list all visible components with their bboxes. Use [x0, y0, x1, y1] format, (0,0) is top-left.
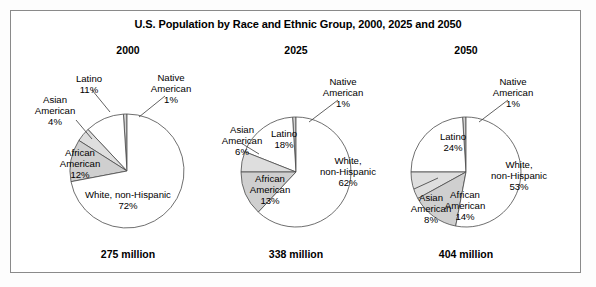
label-line: 12% [70, 169, 89, 180]
label-line: non-Hispanic [491, 170, 547, 181]
label-line: American [445, 200, 486, 211]
label-line: African [255, 173, 285, 184]
label-line: American [250, 184, 291, 195]
label-line: 24% [443, 142, 462, 153]
label-white-non-hispanic-2000: White, non-Hispanic 72% [62, 189, 194, 211]
label-line: African [65, 147, 95, 158]
label-line: 72% [118, 200, 137, 211]
label-asian-american-2025: Asian American 6% [200, 124, 284, 158]
total-population-2025: 338 million [226, 248, 366, 260]
label-african-american-2025: African American 13% [231, 173, 309, 207]
label-line: 13% [260, 195, 279, 206]
label-line: American [151, 83, 192, 94]
label-line: American [493, 87, 534, 98]
label-asian-american-2000: Asian American 4% [13, 94, 97, 128]
label-line: White, [505, 159, 532, 170]
label-line: 6% [235, 146, 249, 157]
label-line: Native [499, 76, 526, 87]
label-line: White, [334, 155, 361, 166]
label-line: 4% [48, 116, 62, 127]
label-line: 1% [336, 98, 350, 109]
label-line: non-Hispanic [320, 166, 376, 177]
label-line: American [222, 135, 263, 146]
total-population-2000: 275 million [58, 248, 198, 260]
label-line: Asian [43, 94, 67, 105]
label-line: American [60, 158, 101, 169]
label-line: Native [329, 76, 356, 87]
label-line: Asian [230, 124, 254, 135]
label-latino-2050: Latino 24% [422, 131, 484, 153]
label-native-american-2000: Native American 1% [128, 72, 214, 106]
label-line: 62% [338, 177, 357, 188]
label-native-american-2050: Native American 1% [470, 76, 556, 110]
label-white-non-hispanic-2025: White, non-Hispanic 62% [306, 155, 390, 189]
label-line: 14% [455, 211, 474, 222]
figure-canvas: U.S. Population by Race and Ethnic Group… [0, 0, 596, 287]
label-line: Native [157, 72, 184, 83]
label-line: 53% [509, 181, 528, 192]
label-african-american-2000: African American 12% [41, 147, 119, 181]
label-african-american-2050: African American 14% [426, 189, 504, 223]
label-line: 1% [164, 94, 178, 105]
label-line: African [450, 189, 480, 200]
label-line: 1% [506, 98, 520, 109]
label-latino-2000: Latino 11% [58, 73, 120, 95]
label-white-non-hispanic-2050: White, non-Hispanic 53% [477, 159, 561, 193]
label-line: Latino [76, 73, 102, 84]
label-line: White, non-Hispanic [85, 189, 171, 200]
label-native-american-2025: Native American 1% [300, 76, 386, 110]
total-population-2050: 404 million [396, 248, 536, 260]
label-line: American [35, 105, 76, 116]
label-line: American [323, 87, 364, 98]
label-line: Latino [440, 131, 466, 142]
